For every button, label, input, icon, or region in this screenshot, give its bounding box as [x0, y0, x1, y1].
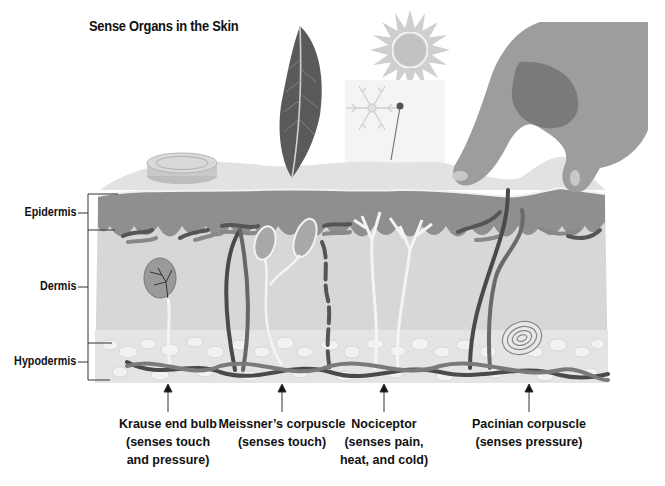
caption-arrows — [164, 384, 533, 412]
skin-cross-section-illustration — [0, 0, 665, 486]
sun-icon — [370, 10, 450, 90]
feather-icon — [280, 26, 322, 178]
layer-label-hypodermis: Hypodermis — [14, 354, 76, 368]
layer-label-dermis: Dermis — [40, 279, 76, 293]
caption-pacinian-corpuscle: Pacinian corpuscle (senses pressure) — [464, 415, 594, 451]
caption-meissners-corpuscle: Meissner’s corpuscle (senses touch) — [212, 415, 352, 451]
layer-label-epidermis: Epidermis — [24, 205, 76, 219]
caption-krause-end-bulb: Krause end bulb (senses touch and pressu… — [108, 415, 228, 469]
caption-nociceptor: Nociceptor (senses pain, heat, and cold) — [334, 415, 434, 469]
coin-icon — [147, 153, 217, 184]
